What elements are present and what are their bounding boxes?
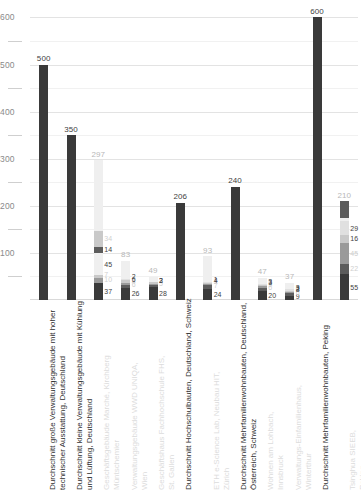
bar-segment[interactable]: 6: [258, 288, 267, 291]
bar-segment[interactable]: 29: [340, 221, 349, 235]
bar-segment[interactable]: 6: [285, 293, 294, 296]
y-axis-tick-label: 400: [0, 107, 28, 117]
category-label-line2: Zürich: [221, 302, 231, 490]
bar-group[interactable]: 5522451629210: [340, 8, 349, 300]
bar-segment[interactable]: 20: [258, 291, 267, 300]
category-label-line2: St. Gallen: [167, 302, 177, 490]
bar-segment[interactable]: 4: [203, 283, 212, 285]
bar-segment[interactable]: 34: [94, 231, 103, 247]
bar-stack[interactable]: [39, 65, 48, 300]
bar-stack[interactable]: 96323: [285, 283, 294, 300]
bar-group[interactable]: 2852349: [149, 8, 158, 300]
bar-segment[interactable]: 2: [149, 284, 158, 285]
bar-group[interactable]: 24724193: [203, 8, 212, 300]
bar-segment[interactable]: [176, 203, 185, 300]
bar-group[interactable]: 9632337: [285, 8, 294, 300]
bar-segment[interactable]: 3: [149, 282, 158, 283]
bar-segment[interactable]: 5: [149, 284, 158, 286]
bar-total-label: 206: [174, 192, 188, 201]
gridline-minor: [30, 88, 358, 89]
bar-segment[interactable]: [149, 277, 158, 282]
bar-segment[interactable]: [340, 201, 349, 217]
bar-segment[interactable]: 4: [121, 283, 130, 285]
bar-segment[interactable]: 6: [121, 280, 130, 283]
bar-stack[interactable]: 28523: [149, 277, 158, 300]
bar-stack[interactable]: [176, 203, 185, 300]
category-label: Durchschnitt Hochschulbauten, Deutschlan…: [184, 302, 194, 490]
bar-segment[interactable]: [39, 65, 48, 300]
bar-segment[interactable]: 26: [121, 288, 130, 300]
bar-segment[interactable]: [258, 278, 267, 284]
bar-segment[interactable]: 2: [285, 291, 294, 292]
bar-segment[interactable]: 3: [258, 286, 267, 287]
bar-segment[interactable]: 37: [94, 283, 103, 300]
category-label-line1: Geschäftsgebäude Marché, Kirchberg: [102, 355, 111, 490]
segment-value-label: 37: [104, 288, 112, 295]
bar-segment[interactable]: 24: [203, 289, 212, 300]
bar-group[interactable]: 350: [67, 8, 76, 300]
bar-segment[interactable]: 14: [94, 247, 103, 254]
bar-segment[interactable]: [94, 160, 103, 231]
bar-segment[interactable]: [313, 17, 322, 300]
bar-group[interactable]: 600: [313, 8, 322, 300]
bar-segment[interactable]: 3: [258, 285, 267, 286]
plot-area: 1002003004005006005003503710745143429726…: [30, 8, 358, 300]
bar-stack[interactable]: 247241: [203, 256, 212, 300]
bar-segment[interactable]: 10: [94, 278, 103, 283]
bar-total-label: 93: [203, 246, 212, 255]
segment-value-label: 14: [104, 246, 112, 253]
bar-group[interactable]: 500: [39, 8, 48, 300]
bar-segment[interactable]: [203, 256, 212, 282]
bar-segment[interactable]: 2: [121, 279, 130, 280]
bar-total-label: 297: [92, 150, 106, 159]
bar-segment[interactable]: [285, 283, 294, 290]
gridline-major: [30, 17, 358, 18]
bar-segment[interactable]: 45: [94, 253, 103, 274]
segment-value-label: 3: [268, 278, 272, 285]
bar-segment[interactable]: 55: [340, 274, 349, 300]
bar-stack[interactable]: [67, 135, 76, 300]
category-label: Durchschnitt große Verwaltungsgebäude mi…: [48, 302, 68, 490]
segment-value-label: 24: [214, 291, 222, 298]
bar-total-label: 600: [310, 7, 324, 16]
category-label-line1: Tsinghua SIEEB,: [348, 430, 357, 490]
bar-segment[interactable]: 16: [340, 235, 349, 243]
bar-segment[interactable]: 3: [285, 289, 294, 290]
bar-group[interactable]: 206: [176, 8, 185, 300]
bar-segment[interactable]: 7: [203, 285, 212, 288]
bar-segment[interactable]: 3: [258, 284, 267, 285]
y-minor-tick-dash: [8, 276, 22, 277]
bar-segment[interactable]: 9: [285, 296, 294, 300]
bar-stack[interactable]: [313, 17, 322, 300]
bar-stack[interactable]: 266462: [121, 261, 130, 300]
bar-stack[interactable]: 5522451629: [340, 201, 349, 300]
category-label-line2: Müntschemier: [112, 302, 122, 490]
bar-group[interactable]: 37107451434297: [94, 8, 103, 300]
segment-value-label: 22: [350, 265, 358, 272]
bar-segment[interactable]: 3: [285, 292, 294, 293]
bar-stack[interactable]: [231, 187, 240, 300]
bar-segment[interactable]: 7: [94, 275, 103, 278]
segment-value-label: 55: [350, 284, 358, 291]
bar-stack[interactable]: 37107451434: [94, 160, 103, 300]
bar-segment[interactable]: [121, 261, 130, 279]
bar-group[interactable]: 20633347: [258, 8, 267, 300]
bar-segment[interactable]: 28: [149, 287, 158, 300]
segment-value-label: 29: [350, 225, 358, 232]
bar-segment[interactable]: [340, 218, 349, 222]
bar-segment[interactable]: 6: [121, 285, 130, 288]
segment-value-label: 28: [159, 290, 167, 297]
y-axis-tick-label: 100: [0, 248, 28, 258]
segment-value-label: 16: [350, 235, 358, 242]
bar-total-label: 500: [37, 54, 51, 63]
bar-segment[interactable]: [67, 135, 76, 300]
bar-segment[interactable]: 45: [340, 243, 349, 264]
y-axis-tick-label: 200: [0, 201, 28, 211]
bar-segment[interactable]: [231, 187, 240, 300]
bar-stack[interactable]: 206333: [258, 278, 267, 300]
bar-segment[interactable]: 2: [203, 284, 212, 285]
bar-segment[interactable]: 22: [340, 264, 349, 274]
category-label: Verwaltungs-Einfamilienhaus,Winterthur: [294, 302, 314, 490]
bar-group[interactable]: 26646283: [121, 8, 130, 300]
bar-group[interactable]: 240: [231, 8, 240, 300]
